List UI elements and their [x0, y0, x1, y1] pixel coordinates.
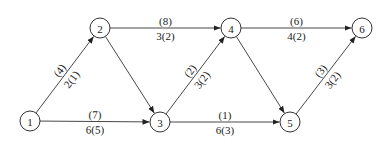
node-1: 1: [20, 111, 40, 131]
edge-3-4: (2)3(2): [166, 36, 225, 114]
edge-flow-label: 3(2): [156, 30, 175, 43]
edge-3-5: (1)6(3): [170, 109, 280, 137]
node-5: 5: [280, 112, 300, 132]
edge-arrow-line: [236, 36, 284, 113]
edges-layer: (4)2(1)(7)6(5)(8)3(2)(2)3(2)(1)6(3)(6)4(…: [36, 15, 356, 137]
node-2: 2: [90, 18, 110, 38]
edge-4-6: (6)4(2): [241, 15, 352, 43]
network-diagram: (4)2(1)(7)6(5)(8)3(2)(2)3(2)(1)6(3)(6)4(…: [0, 0, 386, 144]
edge-capacity-label: (1): [219, 109, 232, 122]
node-label: 3: [157, 117, 163, 129]
edge-capacity-label: (6): [290, 15, 303, 28]
edge-arrow-line: [105, 36, 154, 113]
node-label: 6: [359, 23, 365, 35]
edge-flow-label: 4(2): [287, 30, 306, 43]
edge-2-3: [105, 36, 154, 113]
edge-capacity-label: (8): [159, 15, 172, 28]
edge-arrow-line: [296, 36, 356, 114]
node-label: 5: [287, 117, 293, 129]
edge-4-5: [236, 36, 284, 113]
edge-arrow-line: [166, 36, 225, 114]
node-label: 2: [97, 23, 103, 35]
edge-capacity-label: (7): [89, 108, 102, 121]
edge-2-4: (8)3(2): [110, 15, 221, 43]
node-label: 1: [27, 116, 33, 128]
edge-flow-label: 6(3): [216, 124, 235, 137]
diagram-canvas: (4)2(1)(7)6(5)(8)3(2)(2)3(2)(1)6(3)(6)4(…: [0, 0, 386, 144]
node-6: 6: [352, 18, 372, 38]
edge-5-6: (3)3(2): [296, 36, 356, 114]
node-3: 3: [150, 112, 170, 132]
edge-1-3: (7)6(5): [40, 108, 150, 136]
edge-flow-label: 6(5): [86, 123, 105, 136]
node-4: 4: [221, 18, 241, 38]
edge-arrow-line: [40, 121, 150, 122]
edge-arrow-line: [36, 36, 94, 113]
node-label: 4: [228, 23, 234, 35]
edge-1-2: (4)2(1): [36, 36, 94, 113]
